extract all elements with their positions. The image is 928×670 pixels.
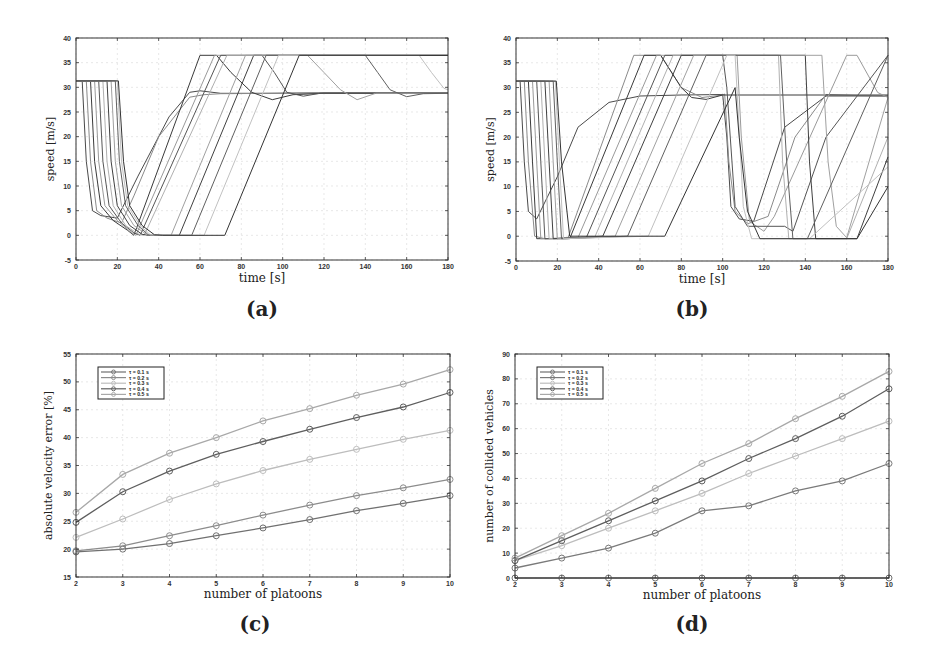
y-tick-label: 40: [502, 475, 510, 482]
x-tick-label: 6: [261, 580, 265, 587]
y-tick-label: 15: [63, 158, 71, 165]
y-tick-label: -5: [505, 258, 511, 265]
y-tick-label: 40: [503, 35, 511, 42]
y-tick-label: 25: [63, 109, 71, 116]
y-tick-label: 30: [502, 500, 510, 507]
caption-a: (a): [232, 297, 292, 321]
x-tick-label: 20: [553, 264, 561, 271]
x-tick-label: 4: [168, 580, 172, 587]
y-tick-label: 20: [63, 133, 71, 140]
x-tick-label: 140: [799, 264, 811, 271]
y-tick-label: 15: [503, 158, 511, 165]
x-tick-label: 180: [442, 263, 454, 270]
x-tick-label: 6: [700, 581, 704, 588]
x-tick-label: 180: [882, 264, 894, 271]
y-tick-label: 30: [63, 490, 71, 497]
y-tick-label: 10: [63, 183, 71, 190]
y-tick-label: 70: [502, 400, 510, 407]
x-tick-label: 120: [318, 263, 330, 270]
x-tick-label: 0: [514, 264, 518, 271]
y-tick-label: 35: [63, 462, 71, 469]
y-tick-label: 0: [507, 233, 511, 240]
y-tick-label: 10: [503, 183, 511, 190]
y-tick-label: 20: [63, 546, 71, 553]
x-tick-label: 9: [401, 580, 405, 587]
chart-speed-b: 020406080100120140160180-505101520253035…: [464, 0, 928, 300]
x-tick-label: 8: [794, 581, 798, 588]
y-tick-label: 15: [63, 574, 71, 581]
series-line: [516, 81, 888, 221]
series-line: [76, 81, 448, 223]
x-tick-label: 2: [513, 581, 517, 588]
y-tick-label: 10: [502, 550, 510, 557]
y-tick-label: 90: [502, 351, 510, 358]
x-tick-label: 3: [560, 581, 564, 588]
y-tick-label: 60: [502, 425, 510, 432]
caption-d: (d): [662, 612, 722, 636]
y-tick-label: 20: [503, 134, 511, 141]
x-tick-label: 120: [758, 264, 770, 271]
y-tick-label: 55: [63, 351, 71, 358]
series-line: [76, 81, 448, 218]
x-tick-label: 160: [401, 263, 413, 270]
x-axis-label: time [s]: [239, 271, 285, 285]
chart-speed-a: 020406080100120140160180-505101520253035…: [0, 0, 464, 300]
y-axis-label: speed [m/s]: [44, 117, 57, 182]
x-tick-label: 60: [636, 264, 644, 271]
series-line: [76, 55, 448, 235]
x-tick-label: 160: [841, 264, 853, 271]
x-tick-label: 3: [121, 580, 125, 587]
y-tick-label: 20: [502, 525, 510, 532]
x-tick-label: 4: [607, 581, 611, 588]
x-tick-label: 140: [359, 263, 371, 270]
y-tick-label: 80: [502, 375, 510, 382]
caption-b: (b): [662, 297, 722, 321]
y-tick-label: 45: [63, 406, 71, 413]
x-tick-label: 80: [677, 264, 685, 271]
x-tick-label: 7: [308, 580, 312, 587]
y-axis-label: number of collided vehicles: [483, 389, 496, 543]
y-tick-label: -5: [65, 257, 71, 264]
series-line: [516, 81, 888, 239]
x-tick-label: 20: [113, 263, 121, 270]
x-tick-label: 8: [355, 580, 359, 587]
x-tick-label: 40: [595, 264, 603, 271]
x-tick-label: 2: [74, 580, 78, 587]
x-tick-label: 60: [196, 263, 204, 270]
y-tick-label: 40: [63, 434, 71, 441]
legend: τ = 0.1 sτ = 0.2 sτ = 0.3 sτ = 0.4 sτ = …: [98, 367, 164, 399]
y-tick-label: 25: [503, 109, 511, 116]
x-tick-label: 40: [155, 263, 163, 270]
legend-label: τ = 0.5 s: [129, 391, 149, 397]
panel-a: 020406080100120140160180-505101520253035…: [0, 0, 464, 335]
y-axis-label: speed [m/s]: [484, 117, 497, 182]
y-tick-label: 0: [67, 232, 71, 239]
x-tick-label: 80: [237, 263, 245, 270]
x-tick-label: 100: [277, 263, 289, 270]
y-tick-label: 5: [67, 207, 71, 214]
series-group: [76, 55, 448, 235]
x-tick-label: 7: [747, 581, 751, 588]
chart-collided-vehicles-d: 23456789100102030405060708090number of p…: [464, 335, 928, 615]
x-tick-label: 100: [717, 264, 729, 271]
legend: τ = 0.1 sτ = 0.2 sτ = 0.3 sτ = 0.4 sτ = …: [537, 367, 603, 399]
x-tick-label: 0: [74, 263, 78, 270]
y-tick-label: 30: [503, 84, 511, 91]
panel-b: 020406080100120140160180-505101520253035…: [464, 0, 928, 335]
y-tick-label: 50: [63, 378, 71, 385]
x-tick-label: 10: [446, 580, 454, 587]
panel-c: 2345678910152025303540455055number of pl…: [0, 335, 464, 670]
x-axis-label: number of platoons: [643, 588, 761, 602]
y-tick-label: 30: [63, 84, 71, 91]
y-tick-label: 40: [63, 35, 71, 42]
x-tick-label: 9: [840, 581, 844, 588]
y-tick-label: 0: [506, 575, 510, 582]
x-axis-label: time [s]: [679, 272, 725, 286]
chart-velocity-error-c: 2345678910152025303540455055number of pl…: [0, 335, 464, 615]
y-axis-label: absolute velocity error [%]: [42, 391, 55, 540]
y-tick-label: 5: [507, 208, 511, 215]
x-tick-label: 5: [653, 581, 657, 588]
y-tick-label: 25: [63, 518, 71, 525]
legend-label: τ = 0.5 s: [568, 391, 588, 397]
y-tick-label: 50: [502, 450, 510, 457]
